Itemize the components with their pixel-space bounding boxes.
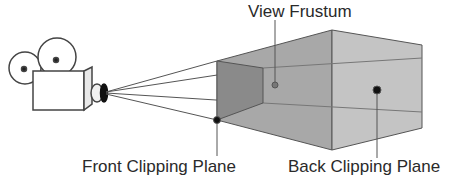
back-clipping-plane-label: Back Clipping Plane	[288, 158, 440, 175]
view-frustum-label: View Frustum	[248, 3, 352, 20]
front-clipping-plane-label: Front Clipping Plane	[82, 158, 236, 175]
camera-icon	[9, 38, 108, 110]
frustum-diagram	[0, 0, 475, 178]
